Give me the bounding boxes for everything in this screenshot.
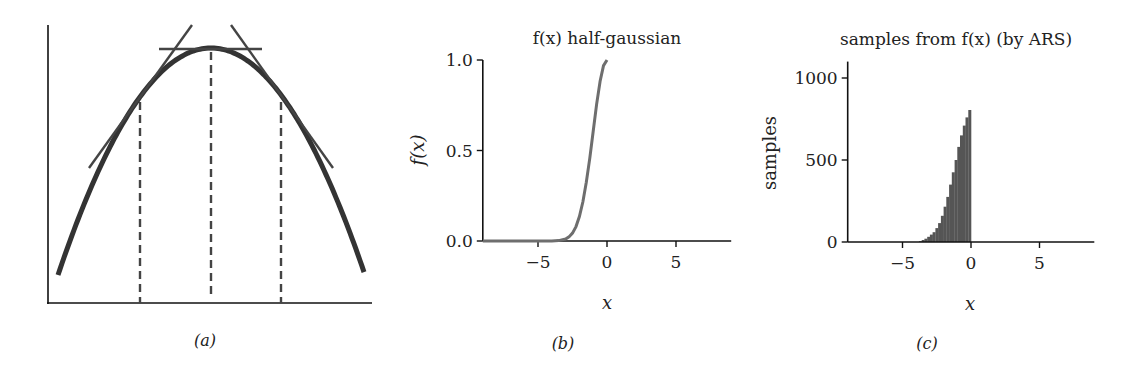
y-tick-label: 1.0 bbox=[446, 50, 473, 70]
histogram-bar bbox=[963, 126, 966, 242]
panel-b-caption: (b) bbox=[552, 334, 575, 353]
panel-b-chart: f(x) half-gaussian −5050.00.51.0 x f(x) … bbox=[407, 28, 731, 353]
panel-b-title: f(x) half-gaussian bbox=[533, 28, 681, 48]
y-tick-label: 1000 bbox=[794, 68, 837, 88]
x-tick-label: −5 bbox=[890, 253, 915, 273]
y-tick-label: 0.0 bbox=[446, 231, 473, 251]
panel-b-y-axis-label: f(x) bbox=[407, 135, 428, 168]
x-tick-label: 5 bbox=[1034, 253, 1045, 273]
histogram-bar bbox=[966, 117, 969, 242]
panel-c-axes: −50505001000 bbox=[794, 62, 1094, 273]
panel-c-y-axis-label: samples bbox=[759, 116, 780, 190]
panel-b-line-series bbox=[483, 60, 607, 241]
histogram-bar bbox=[955, 160, 958, 242]
histogram-bar bbox=[941, 216, 944, 242]
panel-c-x-axis-label: x bbox=[965, 293, 975, 314]
x-tick-label: 0 bbox=[602, 252, 613, 272]
x-tick-label: −5 bbox=[525, 252, 550, 272]
histogram-bar bbox=[968, 110, 971, 242]
histogram-bar bbox=[944, 207, 947, 242]
x-tick-label: 5 bbox=[671, 252, 682, 272]
histogram-bar bbox=[933, 232, 936, 242]
figure: (a) f(x) half-gaussian −5050.00.51.0 x f… bbox=[0, 0, 1130, 368]
histogram-bar bbox=[938, 223, 941, 242]
panel-b-x-axis-label: x bbox=[602, 292, 612, 313]
panel-a-diagram: (a) bbox=[47, 25, 372, 350]
histogram-bar bbox=[957, 147, 960, 242]
y-tick-label: 0 bbox=[827, 232, 838, 252]
histogram-bar bbox=[949, 185, 952, 242]
panel-a-caption: (a) bbox=[194, 331, 216, 350]
histogram-bar bbox=[935, 228, 938, 242]
panel-a-dashed-lines bbox=[140, 52, 281, 303]
histogram-bar bbox=[930, 235, 933, 242]
histogram-bar bbox=[946, 197, 949, 242]
y-tick-label: 500 bbox=[805, 150, 837, 170]
histogram-bar bbox=[960, 135, 963, 242]
panel-c-histogram-bars bbox=[919, 110, 971, 242]
histogram-bar bbox=[952, 172, 955, 242]
panel-c-chart: samples from f(x) (by ARS) −50505001000 … bbox=[759, 29, 1094, 353]
panel-c-caption: (c) bbox=[916, 334, 937, 353]
x-tick-label: 0 bbox=[966, 253, 977, 273]
y-tick-label: 0.5 bbox=[446, 141, 473, 161]
panel-c-title: samples from f(x) (by ARS) bbox=[840, 29, 1072, 49]
